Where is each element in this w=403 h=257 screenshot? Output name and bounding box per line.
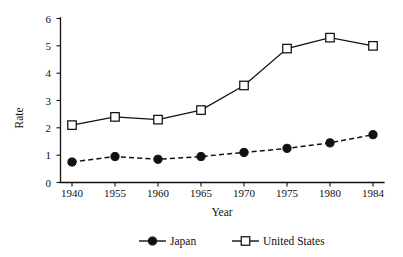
- x-tick-label-4: 1970: [233, 187, 256, 199]
- data-point[interactable]: [154, 115, 163, 124]
- legend-marker-open-square: [241, 237, 250, 246]
- x-tick-label-7: 1984: [362, 187, 385, 199]
- y-axis-title-text: Rate: [13, 107, 25, 128]
- legend-label: Japan: [170, 235, 196, 248]
- legend-item-united-states[interactable]: United States: [232, 235, 325, 247]
- y-tick-label-6: 6: [46, 13, 52, 25]
- data-point[interactable]: [68, 121, 77, 130]
- x-tick-label-5: 1975: [276, 187, 299, 199]
- y-tick-label-5: 5: [46, 40, 52, 52]
- x-tick-label-1: 1955: [104, 187, 127, 199]
- data-point[interactable]: [68, 158, 76, 166]
- data-point[interactable]: [111, 113, 120, 122]
- data-point[interactable]: [283, 144, 291, 152]
- y-tick-label-1: 1: [46, 149, 52, 161]
- legend-label: United States: [263, 235, 325, 247]
- x-tick-label-0: 1940: [61, 187, 84, 199]
- data-point[interactable]: [326, 33, 335, 42]
- y-tick-label-4: 4: [46, 67, 52, 79]
- x-axis-title-text: Year: [211, 206, 232, 218]
- x-tick-label-2: 1960: [147, 187, 170, 199]
- chart-figure: Rate 6 5 4 3 2 1 0: [0, 0, 403, 257]
- y-tick-label-2: 2: [46, 122, 52, 134]
- legend-marker-filled-circle: [148, 237, 156, 245]
- data-point[interactable]: [369, 42, 378, 51]
- data-point[interactable]: [197, 106, 206, 115]
- data-point[interactable]: [197, 152, 205, 160]
- x-tick-label-3: 1965: [190, 187, 213, 199]
- y-tick-label-3: 3: [46, 95, 52, 107]
- line-chart-canvas: Rate 6 5 4 3 2 1 0: [0, 0, 403, 257]
- data-point[interactable]: [240, 148, 248, 156]
- data-point[interactable]: [326, 139, 334, 147]
- data-point[interactable]: [154, 155, 162, 163]
- data-point[interactable]: [283, 44, 292, 53]
- data-point[interactable]: [111, 152, 119, 160]
- y-tick-label-0: 0: [46, 177, 52, 189]
- x-tick-label-6: 1980: [319, 187, 342, 199]
- y-axis-title: Rate: [13, 107, 25, 128]
- data-point[interactable]: [369, 131, 377, 139]
- data-point[interactable]: [240, 81, 249, 90]
